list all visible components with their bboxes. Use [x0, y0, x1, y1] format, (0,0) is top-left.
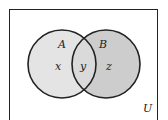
region-x-label: x: [55, 60, 62, 73]
universe-label: U: [143, 102, 153, 115]
venn-diagram: A B x y z U: [0, 0, 168, 120]
region-y-label: y: [79, 60, 87, 73]
set-b-label: B: [98, 38, 107, 51]
set-a-label: A: [57, 38, 66, 51]
region-z-label: z: [105, 60, 112, 73]
